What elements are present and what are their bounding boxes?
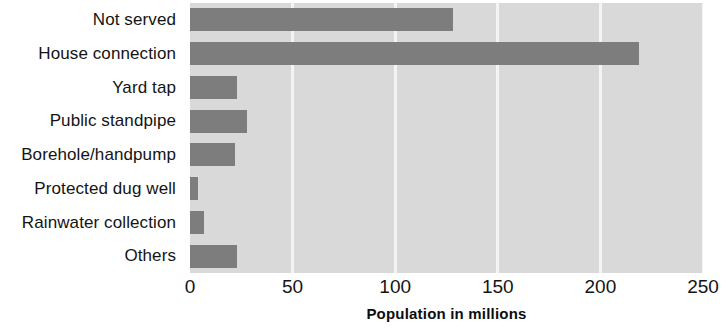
bar <box>190 76 237 99</box>
bar <box>190 110 247 133</box>
bar <box>190 245 237 268</box>
x-tick-label-200: 200 <box>585 276 617 298</box>
bars-layer <box>190 3 703 273</box>
bar-chart: Not served House connection Yard tap Pub… <box>0 0 727 331</box>
category-label-not-served: Not served <box>0 3 183 37</box>
bar-row <box>190 239 703 273</box>
category-label-protected-dug-well: Protected dug well <box>0 172 183 206</box>
category-label-house-connection: House connection <box>0 37 183 71</box>
bar-row <box>190 3 703 37</box>
category-label-yard-tap: Yard tap <box>0 71 183 105</box>
x-tick-label-150: 150 <box>482 276 514 298</box>
bar <box>190 143 235 166</box>
bar <box>190 177 198 200</box>
category-label-public-standpipe: Public standpipe <box>0 104 183 138</box>
bar-row <box>190 172 703 206</box>
bar <box>190 8 453 31</box>
plot-area <box>190 3 703 273</box>
x-tick-label-100: 100 <box>379 276 411 298</box>
bar-row <box>190 104 703 138</box>
x-tick-label-50: 50 <box>282 276 303 298</box>
category-label-borehole-handpump: Borehole/handpump <box>0 138 183 172</box>
x-axis-title: Population in millions <box>190 305 703 322</box>
category-label-rainwater-collection: Rainwater collection <box>0 206 183 240</box>
bar-row <box>190 71 703 105</box>
bar <box>190 211 204 234</box>
bar <box>190 42 639 65</box>
category-axis-labels: Not served House connection Yard tap Pub… <box>0 3 183 273</box>
x-axis-ticks: 050100150200250 <box>190 276 703 302</box>
bar-row <box>190 37 703 71</box>
x-tick-label-250: 250 <box>687 276 719 298</box>
x-tick-label-0: 0 <box>185 276 196 298</box>
bar-row <box>190 138 703 172</box>
bar-row <box>190 206 703 240</box>
category-label-others: Others <box>0 239 183 273</box>
